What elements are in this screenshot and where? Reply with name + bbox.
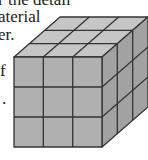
cube-front-face xyxy=(14,57,102,147)
cube-diagram xyxy=(0,0,148,160)
